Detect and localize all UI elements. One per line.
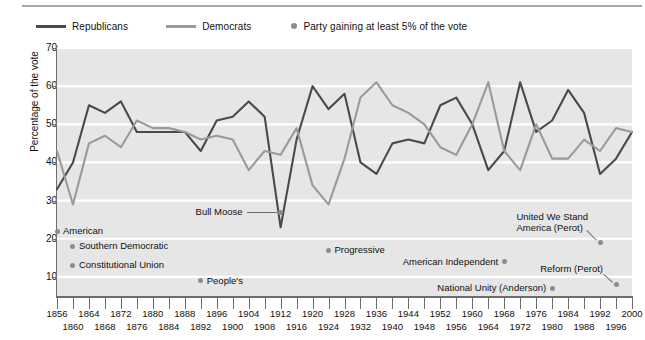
legend-item-democrats: Democrats	[166, 21, 251, 32]
x-tick-label: 1920	[302, 308, 323, 319]
legend-item-third-party: Party gaining at least 5% of the vote	[291, 21, 467, 32]
x-tick-label: 1964	[478, 321, 499, 332]
x-tick-label: 1916	[286, 321, 307, 332]
x-tick-mark	[233, 298, 234, 309]
x-tick-label: 1972	[510, 321, 531, 332]
republicans-line-swatch	[36, 25, 66, 28]
legend-item-republicans: Republicans	[36, 21, 128, 32]
x-tick-mark	[329, 298, 330, 309]
x-tick-label: 1984	[558, 308, 579, 319]
x-tick-label: 1896	[206, 308, 227, 319]
third-party-bull-moose-dot	[278, 210, 283, 215]
x-tick-label: 1868	[94, 321, 115, 332]
x-tick-label: 1936	[366, 308, 387, 319]
third-party-southern-democratic-label: Southern Democratic	[79, 240, 168, 251]
x-tick-label: 1968	[494, 308, 515, 319]
third-party-american-dot	[55, 229, 60, 234]
x-tick-mark	[265, 298, 266, 309]
legend-label-republicans: Republicans	[72, 21, 128, 32]
x-tick-mark	[73, 298, 74, 309]
x-tick-label: 1952	[430, 308, 451, 319]
x-tick-label: 1912	[270, 308, 291, 319]
x-tick-mark	[169, 298, 170, 309]
third-party-dot-swatch	[291, 23, 297, 29]
x-tick-label: 1900	[222, 321, 243, 332]
legend-label-democrats: Democrats	[202, 21, 251, 32]
x-tick-label: 1928	[334, 308, 355, 319]
legend-label-third-party: Party gaining at least 5% of the vote	[303, 21, 467, 32]
x-tick-mark	[201, 298, 202, 309]
x-tick-mark	[456, 298, 457, 309]
chart-root: Republicans Democrats Party gaining at l…	[0, 0, 645, 340]
third-party-progressive-label: Progressive	[335, 244, 385, 255]
top-divider	[22, 5, 642, 7]
x-tick-mark	[297, 298, 298, 309]
x-tick-label: 1924	[318, 321, 339, 332]
annotation-leader-line	[247, 212, 277, 213]
x-tick-mark	[616, 298, 617, 309]
third-party-national-unity-anderson-dot	[550, 286, 555, 291]
x-tick-mark	[360, 298, 361, 309]
x-tick-label: 1932	[350, 321, 371, 332]
x-tick-label: 1876	[126, 321, 147, 332]
x-tick-label: 1908	[254, 321, 275, 332]
x-tick-mark	[520, 298, 521, 309]
x-tick-mark	[552, 298, 553, 309]
x-tick-mark	[392, 298, 393, 309]
chart-legend: Republicans Democrats Party gaining at l…	[36, 18, 467, 34]
third-party-people-s-label: People's	[207, 275, 243, 286]
x-tick-mark	[137, 298, 138, 309]
x-tick-label: 1992	[589, 308, 610, 319]
x-tick-label: 1880	[142, 308, 163, 319]
x-tick-mark	[105, 298, 106, 309]
x-tick-label: 1980	[542, 321, 563, 332]
third-party-bull-moose-label: Bull Moose	[196, 206, 243, 217]
x-tick-label: 1956	[446, 321, 467, 332]
plot-area: AmericanSouthern DemocraticConstitutiona…	[57, 48, 632, 296]
third-party-national-unity-anderson-label: National Unity (Anderson)	[437, 282, 546, 293]
x-tick-label: 1988	[574, 321, 595, 332]
third-party-united-we-stand-america-perot-label: United We StandAmerica (Perot)	[516, 211, 588, 233]
third-party-american-independent-label: American Independent	[403, 256, 499, 267]
x-tick-label: 2000	[621, 308, 642, 319]
third-party-constitutional-union-label: Constitutional Union	[79, 259, 164, 270]
democrats-line-swatch	[166, 25, 196, 28]
third-party-united-we-stand-america-perot-dot	[598, 240, 603, 245]
third-party-american-label: American	[63, 225, 103, 236]
third-party-reform-perot-label: Reform (Perot)	[540, 263, 603, 274]
x-tick-label: 1960	[462, 308, 483, 319]
x-tick-mark	[424, 298, 425, 309]
third-party-reform-perot-dot	[614, 282, 619, 287]
third-party-american-independent-dot	[502, 259, 507, 264]
x-tick-label: 1892	[190, 321, 211, 332]
x-tick-label: 1860	[62, 321, 83, 332]
x-tick-label: 1884	[158, 321, 179, 332]
x-tick-label: 1944	[398, 308, 419, 319]
x-tick-label: 1940	[382, 321, 403, 332]
third-party-progressive-dot	[326, 248, 331, 253]
series-line-democrats	[57, 82, 632, 204]
x-tick-label: 1904	[238, 308, 259, 319]
x-tick-label: 1948	[414, 321, 435, 332]
x-tick-mark	[584, 298, 585, 309]
x-tick-label: 1864	[78, 308, 99, 319]
x-tick-label: 1856	[46, 308, 67, 319]
x-tick-label: 1996	[605, 321, 626, 332]
x-axis-ticks: 1856186418721880188818961904191219201928…	[57, 298, 632, 338]
x-tick-label: 1976	[526, 308, 547, 319]
x-tick-label: 1872	[110, 308, 131, 319]
x-tick-label: 1888	[174, 308, 195, 319]
y-axis-ticks: 10203040506070	[23, 48, 57, 296]
x-tick-mark	[488, 298, 489, 309]
